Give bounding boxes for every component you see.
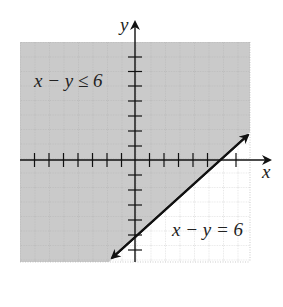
inequality-graph: y x x − y ≤ 6 x − y = 6 bbox=[0, 0, 283, 307]
y-axis-label: y bbox=[118, 14, 129, 35]
equation-label: x − y = 6 bbox=[171, 219, 244, 240]
inequality-label: x − y ≤ 6 bbox=[33, 70, 103, 91]
x-axis-label: x bbox=[261, 161, 271, 182]
